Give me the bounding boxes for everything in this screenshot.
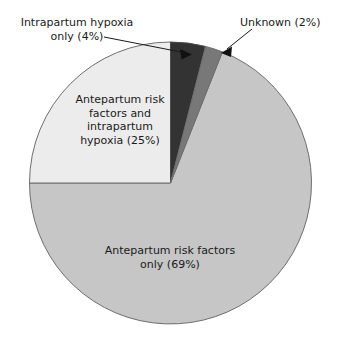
pie-chart-figure: Intrapartum hypoxia only (4%) Unknown (2… [0,0,338,343]
label-antepartum-and-intrapartum: Antepartum risk factors and intrapartum … [57,93,183,147]
label-unknown: Unknown (2%) [240,16,336,30]
label-antepartum-risk-factors-only: Antepartum risk factors only (69%) [78,244,262,271]
leader-line-unknown [227,29,252,49]
label-intrapartum-hypoxia-only: Intrapartum hypoxia only (4%) [8,16,146,43]
pie-chart-svg [0,0,338,343]
